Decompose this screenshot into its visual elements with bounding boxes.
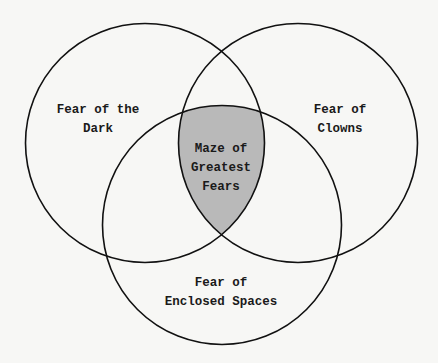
venn-diagram: Fear of the Dark Fear of Clowns Fear of … [0,0,438,363]
label-clowns-line1: Fear of [314,103,367,117]
center-line3: Fears [202,180,240,194]
label-fear-of-enclosed-spaces: Fear of Enclosed Spaces [165,276,278,309]
label-clowns-line2: Clowns [317,122,362,136]
label-enclosed-line2: Enclosed Spaces [165,295,278,309]
label-dark-line2: Dark [83,122,114,136]
label-fear-of-the-dark: Fear of the Dark [57,103,140,136]
label-enclosed-line1: Fear of [195,276,248,290]
center-line2: Greatest [191,161,251,175]
label-fear-of-clowns: Fear of Clowns [314,103,367,136]
label-dark-line1: Fear of the [57,103,140,117]
center-line1: Maze of [195,142,248,156]
